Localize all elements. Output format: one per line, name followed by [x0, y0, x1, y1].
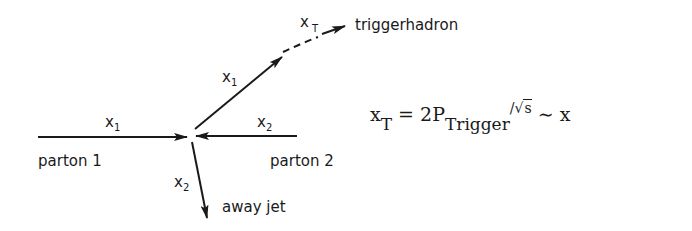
x2-incoming-label: x2	[257, 113, 272, 133]
away-jet-arrow	[192, 142, 207, 218]
parton2-label: parton 2	[270, 152, 334, 170]
parton-scattering-diagram: x1 x2 parton 1 parton 2 x1 xT triggerhad…	[0, 0, 692, 231]
x1-outgoing-label: x1	[222, 68, 237, 88]
xT-formula: xT = 2PTrigger/√s ∼ x	[370, 103, 570, 134]
formula-rhs: x	[560, 103, 571, 125]
formula-approx: ∼	[538, 103, 554, 125]
parton1-label: parton 1	[38, 152, 102, 170]
trigger-hadron-label: triggerhadron	[355, 16, 458, 34]
trigger-hadron-arrowhead	[322, 26, 345, 34]
formula-sqrt-s: /√s	[510, 100, 532, 116]
formula-lhs: xT	[370, 103, 392, 125]
away-jet-label: away jet	[222, 198, 286, 216]
trigger-parton-arrow	[195, 57, 282, 129]
trigger-hadron-dashed-arrow	[283, 37, 318, 52]
xT-label: xT	[300, 13, 319, 34]
x2-away-label: x2	[174, 173, 189, 193]
x1-incoming-label: x1	[105, 113, 120, 133]
formula-equals: =	[398, 103, 414, 125]
formula-momentum: 2PTrigger	[420, 103, 510, 125]
